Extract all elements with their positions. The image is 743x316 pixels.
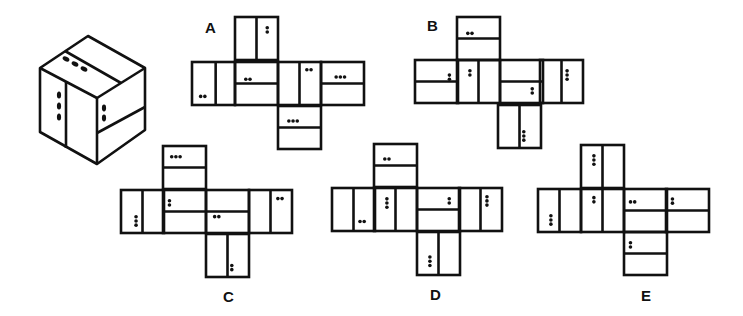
reference-cube — [40, 36, 145, 164]
dot-marker — [448, 73, 452, 77]
dot-marker — [309, 68, 313, 72]
cube-outline — [40, 36, 145, 164]
dot-marker — [629, 241, 633, 245]
dot-marker — [470, 32, 474, 36]
dot-marker — [565, 73, 569, 77]
dot-marker — [385, 197, 389, 201]
net-face — [581, 145, 624, 188]
dot-marker — [592, 158, 596, 162]
nets-layer — [121, 17, 709, 277]
dot-marker — [447, 201, 451, 205]
net-option-e[interactable] — [538, 145, 709, 275]
puzzle-drawing — [0, 0, 743, 316]
dot-marker — [522, 138, 526, 142]
dot-marker — [362, 220, 366, 224]
dot-marker — [633, 200, 637, 204]
net-option-c[interactable] — [121, 146, 292, 277]
net-option-a[interactable] — [192, 17, 364, 149]
dot-marker — [383, 157, 387, 161]
dot-marker — [428, 264, 432, 268]
dot-marker — [170, 155, 174, 159]
net-face — [235, 17, 278, 60]
dot-marker — [629, 245, 633, 249]
net-face — [121, 190, 164, 233]
option-label-d[interactable]: D — [430, 287, 441, 302]
net-option-b[interactable] — [415, 17, 583, 148]
dot-marker — [385, 201, 389, 205]
dot-marker — [522, 134, 526, 138]
dot-marker — [248, 77, 252, 81]
dot-marker — [174, 155, 178, 159]
dot-marker — [244, 77, 248, 81]
dot-marker — [343, 75, 347, 79]
dot-marker — [485, 195, 489, 199]
dot-marker — [447, 197, 451, 201]
dot-marker — [387, 157, 391, 161]
net-face — [624, 232, 667, 275]
dot-marker — [385, 205, 389, 209]
dot-marker — [230, 264, 234, 268]
dot-marker — [448, 78, 452, 82]
dot-marker — [530, 87, 534, 91]
dot-marker — [305, 68, 309, 72]
dot-marker — [178, 155, 182, 159]
net-option-d[interactable] — [332, 144, 502, 275]
dot-marker — [230, 268, 234, 272]
net-face — [374, 144, 417, 187]
dot-marker — [168, 199, 172, 203]
option-label-a[interactable]: A — [205, 20, 216, 35]
dot-marker — [468, 69, 472, 73]
net-face — [417, 232, 460, 275]
option-label-e[interactable]: E — [641, 288, 651, 303]
net-face — [235, 62, 278, 105]
net-face — [417, 188, 460, 231]
option-label-c[interactable]: C — [223, 289, 234, 304]
net-face — [538, 189, 581, 232]
dot-marker — [134, 219, 138, 223]
dot-marker — [592, 200, 596, 204]
dot-marker — [522, 130, 526, 134]
net-face — [624, 189, 667, 232]
net-face — [163, 146, 206, 189]
net-face — [500, 60, 543, 103]
dot-marker — [428, 255, 432, 259]
option-label-b[interactable]: B — [427, 18, 438, 33]
dot-marker — [287, 119, 291, 123]
net-face — [415, 60, 458, 103]
net-face — [459, 188, 502, 231]
dot-marker — [565, 69, 569, 73]
dot-marker — [549, 218, 553, 222]
cube-right-dots — [102, 105, 106, 122]
dot-marker — [134, 215, 138, 219]
net-face — [457, 60, 500, 103]
net-face — [321, 62, 364, 105]
net-face — [278, 106, 321, 149]
dot-marker — [671, 201, 675, 205]
dot-marker — [485, 199, 489, 203]
dot-marker — [280, 197, 284, 201]
dot-marker — [291, 119, 295, 123]
dot-marker — [485, 203, 489, 207]
dot-marker — [168, 203, 172, 207]
dot-marker — [134, 223, 138, 227]
puzzle-canvas: A B C D E — [0, 0, 743, 316]
dot-marker — [358, 220, 362, 224]
net-face — [192, 62, 235, 105]
net-face — [540, 60, 583, 103]
net-face — [206, 234, 249, 277]
dot-marker — [217, 215, 221, 219]
net-face — [581, 189, 624, 232]
dot-marker — [530, 91, 534, 95]
dot-marker — [428, 259, 432, 263]
net-face — [666, 189, 709, 232]
net-face — [374, 188, 417, 231]
dot-marker — [265, 30, 269, 34]
cube-top-divider — [65, 51, 121, 83]
dot-marker — [265, 26, 269, 30]
dot-marker — [592, 154, 596, 158]
net-face — [163, 190, 206, 233]
dot-marker — [468, 73, 472, 77]
dot-marker — [334, 75, 338, 79]
net-face — [498, 105, 541, 148]
dot-marker — [592, 162, 596, 166]
